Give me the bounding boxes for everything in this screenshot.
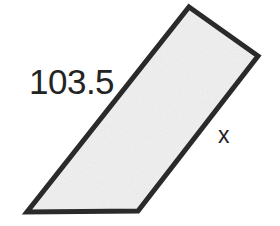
figure-canvas xyxy=(0,0,280,226)
side-length-label-right: x xyxy=(218,124,230,147)
geometry-figure: 103.5 x xyxy=(0,0,280,226)
side-length-label-left: 103.5 xyxy=(29,64,114,99)
